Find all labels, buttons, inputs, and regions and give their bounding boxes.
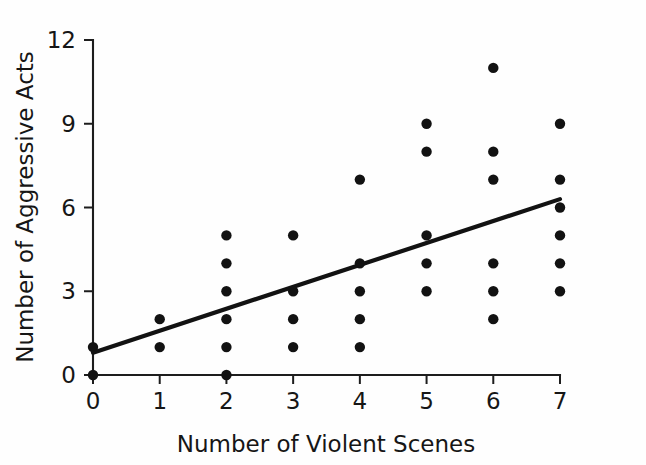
data-point <box>221 258 231 268</box>
x-tick-label-4: 4 <box>353 388 368 414</box>
data-point <box>488 174 498 184</box>
y-tick-label-6: 6 <box>61 195 76 221</box>
data-point <box>221 342 231 352</box>
data-point <box>355 286 365 296</box>
data-point <box>421 286 431 296</box>
data-point <box>555 202 565 212</box>
data-point <box>288 342 298 352</box>
y-tick-label-3: 3 <box>61 278 76 304</box>
data-point <box>555 119 565 129</box>
y-tick-label-12: 12 <box>47 27 76 53</box>
data-point <box>555 230 565 240</box>
x-tick-label-1: 1 <box>152 388 167 414</box>
data-point <box>221 314 231 324</box>
data-point <box>221 286 231 296</box>
data-point <box>488 258 498 268</box>
x-axis-tick-labels: 01234567 <box>86 388 568 414</box>
data-point <box>355 174 365 184</box>
data-point <box>355 314 365 324</box>
data-point <box>88 370 98 380</box>
y-tick-label-0: 0 <box>61 362 76 388</box>
y-tick-label-9: 9 <box>61 111 76 137</box>
scatter-plot-figure: 036912 01234567 Number of Violent Scenes… <box>0 0 646 465</box>
x-axis-ticks <box>93 375 560 384</box>
data-point <box>421 230 431 240</box>
x-tick-label-0: 0 <box>86 388 101 414</box>
x-tick-label-2: 2 <box>219 388 234 414</box>
y-axis-ticks <box>84 40 93 375</box>
data-point <box>555 174 565 184</box>
y-axis-tick-labels: 036912 <box>47 27 76 388</box>
x-tick-label-7: 7 <box>553 388 568 414</box>
y-axis-title: Number of Aggressive Acts <box>12 51 38 363</box>
data-point <box>421 258 431 268</box>
regression-line <box>93 199 560 353</box>
y-axis: 036912 <box>47 27 93 388</box>
data-point <box>488 63 498 73</box>
x-axis-title: Number of Violent Scenes <box>177 431 475 457</box>
x-tick-label-5: 5 <box>419 388 434 414</box>
data-point <box>488 286 498 296</box>
data-point <box>555 258 565 268</box>
chart-canvas: 036912 01234567 Number of Violent Scenes… <box>0 0 646 465</box>
data-point <box>488 146 498 156</box>
x-tick-label-3: 3 <box>286 388 301 414</box>
data-point <box>488 314 498 324</box>
data-point <box>555 286 565 296</box>
data-point <box>288 314 298 324</box>
data-point <box>288 230 298 240</box>
data-point <box>155 342 165 352</box>
data-point <box>155 314 165 324</box>
data-point <box>421 119 431 129</box>
data-point <box>355 342 365 352</box>
data-point <box>221 370 231 380</box>
x-tick-label-6: 6 <box>486 388 501 414</box>
data-point <box>221 230 231 240</box>
x-axis: 01234567 <box>86 375 568 414</box>
data-point <box>421 146 431 156</box>
